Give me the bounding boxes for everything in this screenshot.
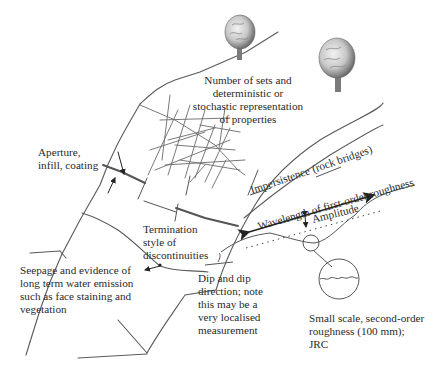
sets-label-line: stochastic representation xyxy=(178,100,318,113)
seepage-label-line: long term water emission xyxy=(20,277,133,290)
termination-label-line: discontinuities xyxy=(143,249,208,262)
dip-label-line: this may be a xyxy=(198,298,263,311)
termination-arrow xyxy=(145,263,162,270)
small-scale-label-line: JRC xyxy=(309,338,424,351)
dip-label-line: measurement xyxy=(198,324,263,337)
aperture-label: Aperture, infill, coating xyxy=(38,146,98,172)
small-scale-label-line: Small scale, second-order xyxy=(309,312,424,325)
sets-label-line: deterministic or xyxy=(178,87,318,100)
termination-label-line: Termination xyxy=(143,223,208,236)
aperture-joint xyxy=(103,152,258,226)
termination-label-line: style of xyxy=(143,236,208,249)
aperture-label-line: infill, coating xyxy=(38,159,98,172)
tree-icon xyxy=(225,15,255,60)
dip-label-line: Dip and dip xyxy=(198,272,263,285)
tree-icon xyxy=(319,38,355,92)
sets-label-line: of properties xyxy=(178,113,318,126)
seepage-label-line: such as face staining and xyxy=(20,290,133,303)
dip-label-line: very localised xyxy=(198,311,263,324)
seepage-label-line: vegetation xyxy=(20,303,133,316)
impersistence-label: Impersistence (rock bridges) xyxy=(249,143,375,197)
sets-label: Number of sets and deterministic or stoc… xyxy=(178,74,318,126)
dip-label-line: direction; note xyxy=(198,285,263,298)
seepage-label: Seepage and evidence of long term water … xyxy=(20,264,133,316)
aperture-label-line: Aperture, xyxy=(38,146,98,159)
sets-label-line: Number of sets and xyxy=(178,74,318,87)
magnified-detail-circle xyxy=(303,235,359,299)
termination-label: Termination style of discontinuities xyxy=(143,223,208,262)
small-scale-label: Small scale, second-order roughness (100… xyxy=(309,312,424,351)
seepage-label-line: Seepage and evidence of xyxy=(20,264,133,277)
dip-label: Dip and dip direction; note this may be … xyxy=(198,272,263,337)
small-scale-label-line: roughness (100 mm); xyxy=(309,325,424,338)
